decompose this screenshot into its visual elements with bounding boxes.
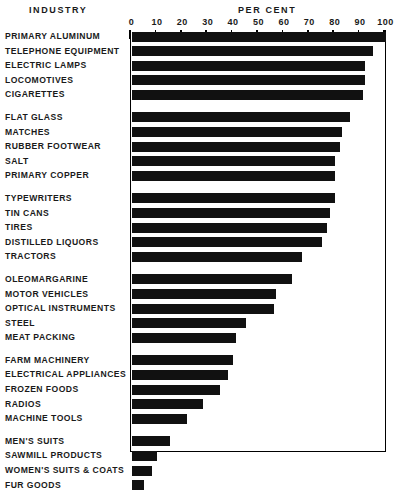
bar-track bbox=[132, 112, 386, 122]
bar-fill bbox=[132, 127, 343, 137]
bar-row-label: RADIOS bbox=[5, 399, 41, 410]
bar-row: TRACTORS bbox=[0, 250, 397, 265]
industry-column-heading: INDUSTRY bbox=[29, 5, 87, 15]
bar-row: FARM MACHINERY bbox=[0, 354, 397, 369]
bar-fill bbox=[132, 274, 292, 284]
bar-fill bbox=[132, 466, 152, 476]
bar-track bbox=[132, 480, 386, 490]
bar-row-label: SAWMILL PRODUCTS bbox=[5, 450, 102, 461]
bar-row-label: CIGARETTES bbox=[5, 89, 65, 100]
bar-fill bbox=[132, 414, 188, 424]
bar-row-label: MACHINE TOOLS bbox=[5, 413, 83, 424]
bar-fill bbox=[132, 193, 335, 203]
bar-row-label: ELECTRICAL APPLIANCES bbox=[5, 369, 126, 380]
x-tick-label: 10 bbox=[151, 17, 162, 27]
bar-fill bbox=[132, 75, 366, 85]
bar-track bbox=[132, 171, 386, 181]
bar-row-label: ELECTRIC LAMPS bbox=[5, 60, 87, 71]
bar-track bbox=[132, 399, 386, 409]
bar-row-label: MEAT PACKING bbox=[5, 332, 76, 343]
bar-fill bbox=[132, 480, 145, 490]
bar-row-label: LOCOMOTIVES bbox=[5, 75, 73, 86]
bar-row-label: RUBBER FOOTWEAR bbox=[5, 141, 101, 152]
bar-fill bbox=[132, 46, 373, 56]
bar-track bbox=[132, 252, 386, 262]
bar-row: OLEOMARGARINE bbox=[0, 273, 397, 288]
bar-fill bbox=[132, 61, 366, 71]
bar-fill bbox=[132, 208, 330, 218]
x-tick-label: 50 bbox=[253, 17, 264, 27]
bar-fill bbox=[132, 304, 274, 314]
group-separator bbox=[0, 184, 397, 192]
bar-row-label: SALT bbox=[5, 156, 29, 167]
bar-fill bbox=[132, 370, 229, 380]
bar-track bbox=[132, 304, 386, 314]
bar-track bbox=[132, 274, 386, 284]
x-tick-label: 70 bbox=[304, 17, 315, 27]
bar-track bbox=[132, 370, 386, 380]
bar-row: LOCOMOTIVES bbox=[0, 74, 397, 89]
bar-fill bbox=[132, 32, 386, 42]
bar-fill bbox=[132, 237, 323, 247]
bar-row-label: TELEPHONE EQUIPMENT bbox=[5, 46, 120, 57]
bar-track bbox=[132, 127, 386, 137]
bar-row: PRIMARY ALUMINUM bbox=[0, 30, 397, 45]
bar-track bbox=[132, 414, 386, 424]
group-separator bbox=[0, 103, 397, 111]
bar-track bbox=[132, 223, 386, 233]
x-tick-label: 20 bbox=[177, 17, 188, 27]
bar-row: WOMEN'S SUITS & COATS bbox=[0, 464, 397, 479]
bar-row: RUBBER FOOTWEAR bbox=[0, 140, 397, 155]
bar-track bbox=[132, 289, 386, 299]
group-separator bbox=[0, 265, 397, 273]
bar-fill bbox=[132, 399, 203, 409]
bar-row: TYPEWRITERS bbox=[0, 192, 397, 207]
bar-row: MACHINE TOOLS bbox=[0, 412, 397, 427]
bar-fill bbox=[132, 385, 221, 395]
bar-row: FUR GOODS bbox=[0, 479, 397, 493]
bar-row: STEEL bbox=[0, 317, 397, 332]
x-tick-label: 0 bbox=[129, 17, 135, 27]
bar-track bbox=[132, 75, 386, 85]
bar-row-label: OPTICAL INSTRUMENTS bbox=[5, 303, 116, 314]
bar-fill bbox=[132, 223, 328, 233]
bar-fill bbox=[132, 112, 350, 122]
bar-row: MOTOR VEHICLES bbox=[0, 288, 397, 303]
bar-row-label: TIRES bbox=[5, 222, 33, 233]
bar-row: ELECTRICAL APPLIANCES bbox=[0, 368, 397, 383]
bar-row: TIN CANS bbox=[0, 207, 397, 222]
bar-track bbox=[132, 142, 386, 152]
bar-row-label: DISTILLED LIQUORS bbox=[5, 237, 99, 248]
bar-row-label: FLAT GLASS bbox=[5, 112, 63, 123]
bar-track bbox=[132, 318, 386, 328]
bar-track bbox=[132, 237, 386, 247]
bar-track bbox=[132, 355, 386, 365]
x-tick-label: 40 bbox=[228, 17, 239, 27]
group-separator bbox=[0, 427, 397, 435]
bar-row: TIRES bbox=[0, 221, 397, 236]
bar-row-label: MOTOR VEHICLES bbox=[5, 289, 89, 300]
bar-row: RADIOS bbox=[0, 398, 397, 413]
bar-fill bbox=[132, 142, 340, 152]
bar-row: ELECTRIC LAMPS bbox=[0, 59, 397, 74]
bar-track bbox=[132, 333, 386, 343]
bar-row: DISTILLED LIQUORS bbox=[0, 236, 397, 251]
bar-row-label: MEN'S SUITS bbox=[5, 436, 65, 447]
bar-row-label: TIN CANS bbox=[5, 208, 49, 219]
x-tick-label: 100 bbox=[377, 17, 394, 27]
percent-axis-heading: PER CENT bbox=[238, 5, 296, 15]
bar-row-label: FROZEN FOODS bbox=[5, 384, 79, 395]
bar-track bbox=[132, 156, 386, 166]
bar-row: FROZEN FOODS bbox=[0, 383, 397, 398]
bar-track bbox=[132, 385, 386, 395]
bar-row: PRIMARY COPPER bbox=[0, 169, 397, 184]
bar-row-label: OLEOMARGARINE bbox=[5, 274, 88, 285]
bar-row: MEAT PACKING bbox=[0, 331, 397, 346]
bar-track bbox=[132, 46, 386, 56]
bar-row-label: TYPEWRITERS bbox=[5, 193, 72, 204]
bar-row: TELEPHONE EQUIPMENT bbox=[0, 45, 397, 60]
bar-rows: PRIMARY ALUMINUMTELEPHONE EQUIPMENTELECT… bbox=[0, 30, 397, 493]
bar-row-label: STEEL bbox=[5, 318, 35, 329]
x-tick-label: 30 bbox=[202, 17, 213, 27]
bar-row-label: FUR GOODS bbox=[5, 480, 61, 491]
